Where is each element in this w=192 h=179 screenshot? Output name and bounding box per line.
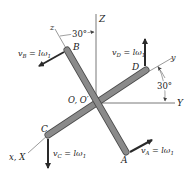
point-A-label: A <box>120 155 128 165</box>
origin-label: O, O′ <box>68 95 89 105</box>
angle-arc-right-tip <box>158 67 165 78</box>
y-axis-label: y <box>170 53 176 62</box>
Z-axis-label: Z <box>98 14 106 24</box>
point-D-label: D <box>131 62 139 72</box>
angle-label-top-text: 30° <box>72 29 87 39</box>
x-axis <box>28 135 48 153</box>
z-axis <box>55 29 67 50</box>
velocity-label-A: vA = lω1 <box>141 146 174 156</box>
Y-axis-label: Y <box>177 98 184 108</box>
point-C-label: C <box>41 124 48 134</box>
velocity-label-C: vC = lω1 <box>53 149 86 159</box>
point-B-label: B <box>72 42 80 52</box>
velocity-label-D: vD = lω1 <box>112 48 145 58</box>
kinematics-diagram: Z Y y z x, X 30° 30° 30° 30° O, O′ B D C… <box>0 0 192 179</box>
velocity-label-B: vB = lω1 <box>18 49 51 59</box>
x-axis-label: x, X <box>9 152 26 162</box>
angle-label-right-text: 30° <box>157 81 172 91</box>
z-axis-label: z <box>49 23 55 32</box>
